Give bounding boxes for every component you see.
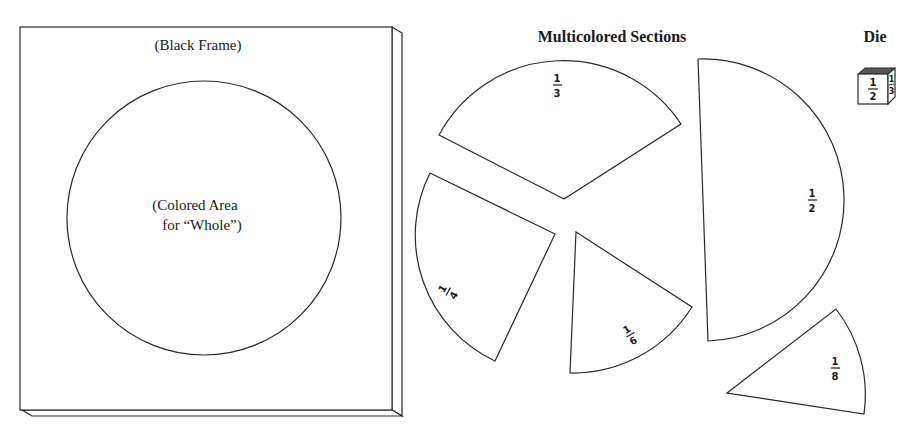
- piece-one-third[interactable]: 1 3: [439, 61, 681, 199]
- piece-one-half[interactable]: 1 2: [698, 59, 844, 341]
- whole-label-line2: for “Whole”): [162, 217, 242, 234]
- frame-bottom-edge: [22, 410, 402, 416]
- fraction-diagram: (Black Frame) (Colored Area for “Whole”)…: [0, 0, 910, 441]
- die-side-face: [888, 68, 895, 104]
- svg-text:1: 1: [832, 356, 839, 367]
- svg-text:1: 1: [870, 77, 877, 88]
- die-icon[interactable]: 1 2 1 3: [858, 68, 895, 104]
- black-frame: (Black Frame) (Colored Area for “Whole”): [20, 27, 402, 416]
- die-title: Die: [863, 28, 886, 45]
- piece-one-sixth[interactable]: 1 6: [570, 232, 692, 373]
- piece-one-quarter[interactable]: 1 4: [415, 173, 555, 361]
- svg-text:2: 2: [809, 203, 816, 214]
- svg-text:1: 1: [809, 188, 816, 199]
- whole-label-line1: (Colored Area: [152, 197, 238, 214]
- frame-right-edge: [392, 27, 402, 416]
- svg-text:1: 1: [554, 73, 561, 84]
- sections-title: Multicolored Sections: [538, 28, 687, 45]
- frame-label: (Black Frame): [154, 37, 241, 54]
- svg-text:2: 2: [870, 91, 877, 102]
- svg-text:8: 8: [832, 371, 839, 382]
- svg-text:3: 3: [889, 87, 895, 96]
- svg-text:1: 1: [889, 75, 895, 84]
- svg-text:3: 3: [554, 88, 561, 99]
